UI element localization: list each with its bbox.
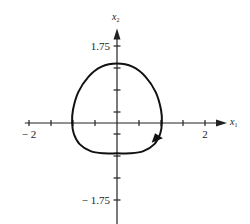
y-tick-label: − 1.75 <box>82 194 111 206</box>
labels: − 221.75− 1.75x1x2 <box>22 11 238 206</box>
y-tick-label: 1.75 <box>91 40 111 52</box>
x-axis-label: x1 <box>229 116 237 128</box>
phase-portrait-chart: − 221.75− 1.75x1x2 <box>0 0 250 224</box>
y-axis-arrow <box>114 28 121 39</box>
y-axis-label: x2 <box>111 11 119 23</box>
x-axis-arrow <box>216 120 227 127</box>
x-tick-label: 2 <box>202 128 208 140</box>
x-tick-label: − 2 <box>22 128 36 140</box>
curves <box>72 64 163 154</box>
axes <box>25 28 227 224</box>
